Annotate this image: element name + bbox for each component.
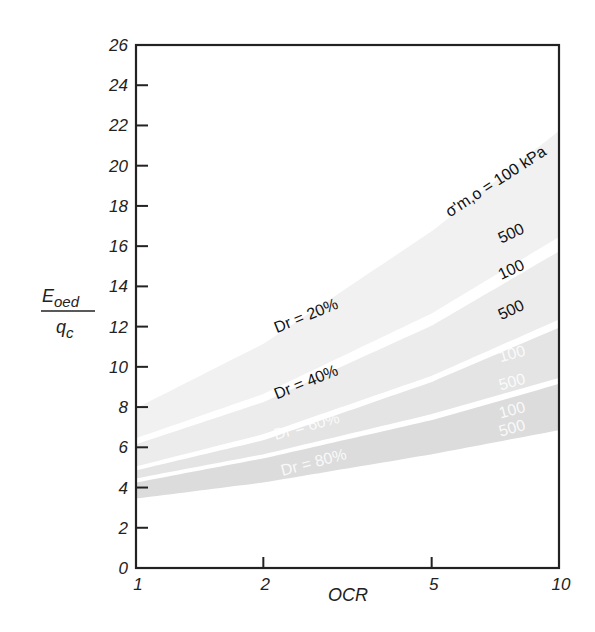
chart-figure: σ'm,o = 100 kPa500100500100500100500Dr =…: [0, 0, 595, 632]
y-title-numerator: Eoed: [42, 286, 80, 310]
y-tick-label: 8: [119, 398, 129, 417]
y-tick-label: 18: [109, 197, 128, 216]
y-axis-title: Eoed qc: [41, 286, 95, 341]
x-tick-label: 1: [133, 575, 142, 594]
y-tick-label: 6: [119, 438, 129, 457]
x-tick-label: 2: [260, 575, 271, 594]
y-tick-label: 0: [119, 559, 129, 578]
y-tick-label: 2: [118, 519, 129, 538]
y-title-denominator: qc: [56, 317, 74, 341]
y-tick-label: 12: [109, 318, 128, 337]
y-tick-label: 10: [109, 358, 128, 377]
x-tick-label: 5: [429, 575, 439, 594]
y-tick-label: 16: [109, 237, 128, 256]
x-tick-label: 10: [552, 575, 571, 594]
y-tick-label: 26: [108, 36, 128, 55]
y-tick-label: 22: [108, 116, 128, 135]
y-tick-label: 24: [108, 76, 128, 95]
y-tick-label: 14: [109, 277, 128, 296]
x-axis-title: OCR: [328, 585, 368, 605]
y-tick-label: 4: [119, 479, 128, 498]
y-tick-label: 20: [108, 157, 128, 176]
